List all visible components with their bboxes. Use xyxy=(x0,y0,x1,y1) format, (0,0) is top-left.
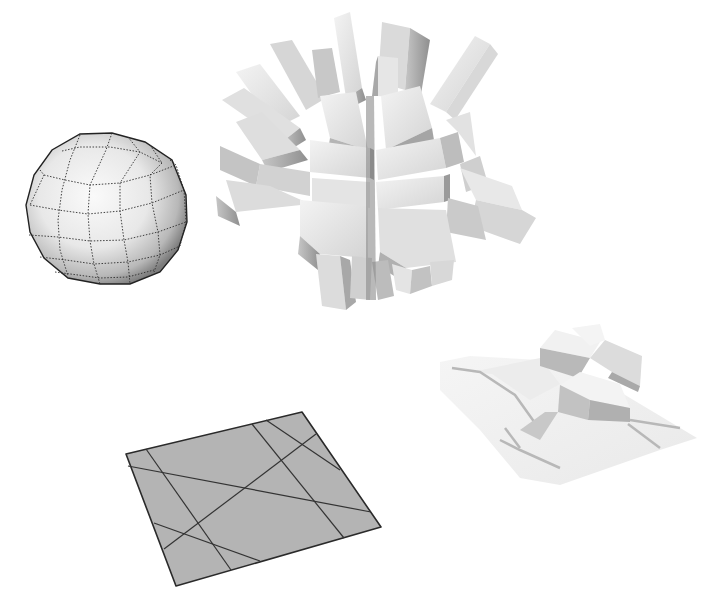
geometry-illustration xyxy=(0,0,706,611)
extruded-terrain xyxy=(0,0,706,611)
